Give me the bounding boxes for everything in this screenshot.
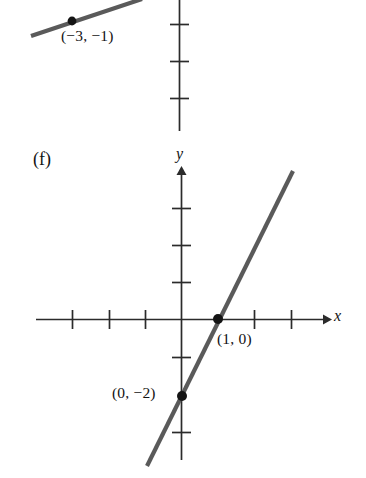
part-label-f: (f)	[33, 149, 51, 170]
y-axis-label: y	[176, 145, 183, 163]
point-marker-1-0	[213, 314, 223, 324]
graph-f-group	[36, 166, 332, 466]
math-figure-canvas	[0, 0, 366, 478]
coordinate-label-1-0: (1, 0)	[217, 330, 252, 348]
point-marker-0-neg2	[177, 391, 187, 401]
coordinate-label-0-neg2: (0, −2)	[112, 384, 156, 402]
upper-graph-group	[31, 0, 189, 131]
y-axis-arrowhead	[177, 166, 187, 175]
coordinate-label-neg3-neg1: (−3, −1)	[61, 27, 114, 45]
x-axis-label: x	[334, 307, 341, 325]
x-axis-arrowhead	[323, 315, 332, 325]
figure-page: (−3, −1) (f) y x (1, 0) (0, −2)	[0, 0, 366, 478]
point-marker-neg3-neg1	[68, 17, 77, 26]
